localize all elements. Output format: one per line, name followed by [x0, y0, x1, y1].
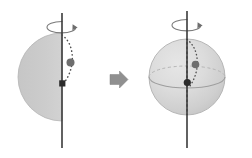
dark-square-marker-left — [59, 80, 65, 86]
figure-root: filled semicircle (left half) shaded sph… — [0, 0, 252, 158]
dark-point-marker-right — [184, 79, 191, 86]
half-disk-shape — [18, 33, 62, 121]
right-panel — [149, 11, 225, 148]
left-panel — [18, 13, 78, 148]
transition-arrow — [110, 71, 128, 88]
gray-point-marker-right — [192, 61, 200, 69]
gray-point-marker-left — [67, 59, 75, 67]
figure-canvas — [0, 0, 252, 158]
